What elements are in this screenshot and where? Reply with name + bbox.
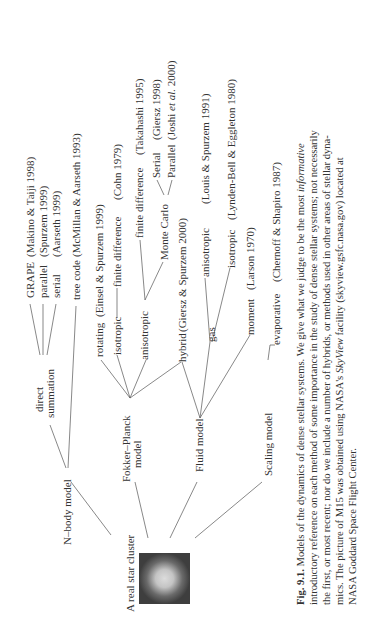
- hybrid-label: hybrid: [176, 333, 188, 362]
- grape-ref: (Makino & Taiji 1998): [24, 157, 37, 257]
- serial-ref: (Aarseth 1999): [50, 190, 63, 257]
- caption-line-3: the first, or most recent; nor do we inc…: [321, 135, 332, 605]
- caption-line-5: NASA Goddard Space Flight Center.: [347, 448, 358, 605]
- iso-finite-difference-label: finite difference: [111, 217, 123, 287]
- mc-parallel-ref: (Joshi et al. 2000): [165, 60, 178, 140]
- root-label: A real star cluster: [124, 534, 136, 612]
- parallel-ref: (Spurzem 1999): [37, 185, 50, 257]
- caption-line-1: Fig. 9.1. Models of the dynamics of dens…: [295, 143, 306, 605]
- fluid-model-label: Fluid model: [193, 419, 205, 472]
- rotating-ref: (Einsel & Spurzem 1999): [93, 204, 106, 317]
- tree-code-label: tree code: [70, 260, 82, 300]
- nbody-model-label: N–body model: [61, 479, 73, 545]
- gas-isotropic-label: isotropic: [225, 229, 237, 268]
- isotropic-label: isotropic: [111, 316, 123, 355]
- gas-label: gas: [205, 327, 217, 342]
- models-diagram: A real star cluster N–body model Fokker–…: [0, 0, 385, 620]
- evaporative-label: evaporative: [270, 294, 282, 345]
- gas-anisotropic-label: anisotropic: [199, 228, 211, 277]
- tree-code-ref: (McMillan & Aarseth 1993): [70, 133, 83, 257]
- caption-line-2: introductory reference on each method of…: [308, 129, 319, 605]
- hybrid-ref: (Giersz & Spurzem 2000): [176, 218, 189, 332]
- grape-label: GRAPE: [24, 262, 36, 298]
- figure-label: Fig. 9.1.: [295, 569, 306, 605]
- aniso-finite-difference-label: finite difference: [133, 168, 145, 238]
- rotating-label: rotating: [93, 322, 105, 357]
- evaporative-ref: (Chernoff & Shapiro 1987): [270, 162, 283, 282]
- iso-finite-difference-ref: (Cohn 1979): [111, 144, 124, 200]
- moment-label: moment: [244, 299, 256, 335]
- scaling-model-label: Scaling model: [262, 413, 274, 476]
- star-cluster-image: [139, 553, 190, 604]
- figure-caption: Fig. 9.1. Models of the dynamics of dens…: [295, 129, 358, 605]
- aniso-finite-difference-ref: (Takahashi 1995): [133, 78, 146, 155]
- fokker-planck-label-line2: model: [131, 441, 143, 469]
- anisotropic-label: anisotropic: [138, 311, 150, 360]
- rotated-figure-page: A real star cluster N–body model Fokker–…: [0, 0, 385, 620]
- monte-carlo-label: Monte Carlo: [158, 204, 170, 260]
- serial-label: serial: [50, 274, 62, 298]
- mc-serial-ref: (Giersz 1998): [150, 79, 163, 140]
- moment-ref: (Larson 1970): [244, 227, 257, 290]
- mc-serial-label: Serial: [150, 152, 162, 178]
- caption-line-4: mics. The picture of M15 was obtained us…: [334, 157, 346, 605]
- gas-isotropic-ref: (Lynden-Bell & Eggleton 1980): [225, 79, 238, 220]
- parallel-label: parallel: [37, 265, 49, 298]
- gas-anisotropic-ref: (Louis & Spurzem 1991): [199, 93, 212, 204]
- mc-parallel-label: Parallel: [165, 144, 177, 178]
- direct-summation-label-2: summation: [44, 369, 56, 418]
